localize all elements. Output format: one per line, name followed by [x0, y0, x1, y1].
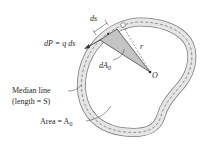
force-label: dP = q ds — [44, 39, 75, 48]
origin-point — [149, 71, 152, 74]
ds-label: ds — [90, 14, 97, 23]
origin-label: O — [152, 71, 158, 80]
point-dot — [107, 33, 109, 35]
r-label: r — [140, 42, 144, 51]
length-label: (length = S) — [12, 97, 51, 106]
median-line-label: Median line — [12, 86, 51, 95]
tube-diagram: ds dP = q ds r dA0 O Median line (length… — [0, 0, 203, 145]
dA0-label: dA0 — [99, 61, 111, 71]
area-label: Area = A0 — [40, 117, 72, 127]
tube-fill — [81, 22, 191, 132]
